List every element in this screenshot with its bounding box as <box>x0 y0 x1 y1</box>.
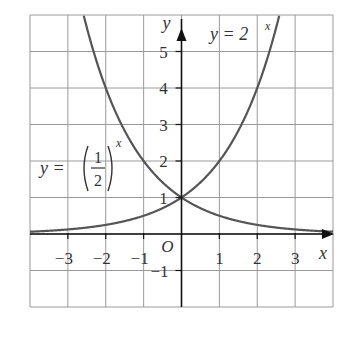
exponential-chart: −3−2−1123−112345Oxyy = 2xy =12x <box>0 0 354 344</box>
origin-label: O <box>161 237 173 256</box>
y-tick-label: 3 <box>159 116 168 135</box>
x-tick-label: 3 <box>291 249 300 268</box>
y-tick-label: 2 <box>159 152 168 171</box>
paren-right <box>108 146 112 191</box>
labels: −3−2−1123−112345Oxyy = 2xy =12x <box>38 13 327 281</box>
label-2-pow-x: y = 2 <box>208 24 248 44</box>
fraction-denominator: 2 <box>94 172 102 189</box>
label-half-pow-x: y = <box>38 158 65 178</box>
y-tick-label: 5 <box>159 43 168 62</box>
label-half-pow-x-exponent: x <box>115 136 122 150</box>
x-tick-label: −2 <box>93 249 111 268</box>
y-tick-label: 4 <box>159 79 168 98</box>
fraction-numerator: 1 <box>94 149 102 166</box>
axes <box>30 19 334 307</box>
paren-left <box>84 146 88 191</box>
label-2-pow-x-exponent: x <box>264 19 271 33</box>
x-tick-label: −1 <box>131 249 149 268</box>
x-tick-label: −3 <box>55 249 73 268</box>
y-tick-label: −1 <box>150 262 168 281</box>
x-axis-label: x <box>318 243 327 263</box>
y-tick-label: 1 <box>159 189 168 208</box>
x-tick-label: 2 <box>253 249 262 268</box>
y-axis-label: y <box>161 13 171 33</box>
x-tick-label: 1 <box>215 249 224 268</box>
y-axis-arrow-icon <box>177 28 187 41</box>
